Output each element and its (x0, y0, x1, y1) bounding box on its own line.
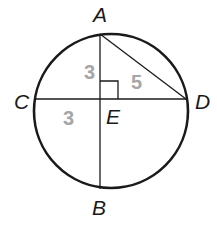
point-label-C: C (14, 90, 30, 113)
length-label-AD: 5 (131, 71, 142, 93)
point-label-B: B (92, 196, 106, 219)
point-label-E: E (106, 105, 121, 128)
point-label-D: D (195, 90, 210, 113)
geometry-figure: A B C D E 3 5 3 (0, 0, 217, 225)
length-label-CE: 3 (63, 107, 74, 129)
right-angle-marker (100, 81, 118, 99)
point-label-A: A (91, 3, 107, 26)
length-label-AE: 3 (84, 61, 95, 83)
diagram-canvas: A B C D E 3 5 3 (0, 0, 217, 225)
